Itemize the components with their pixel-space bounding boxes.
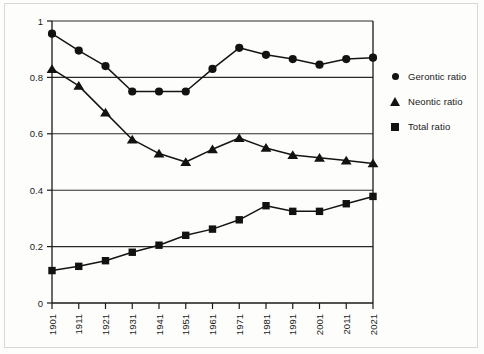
data-point-gerontic-ratio [369, 54, 377, 62]
data-point-total-ratio [343, 200, 350, 207]
x-tick-label: 1931 [127, 314, 138, 335]
x-tick-label: 1951 [180, 314, 191, 335]
legend-item-total-ratio: Total ratio [388, 114, 484, 139]
data-point-neontic-ratio [73, 81, 84, 90]
data-point-gerontic-ratio [48, 30, 56, 38]
x-tick-label: 1991 [287, 314, 298, 335]
triangle-marker-icon [388, 95, 402, 109]
x-tick-label: 2011 [341, 314, 352, 334]
y-tick-label: 0.4 [30, 185, 43, 196]
y-tick-label: 0.8 [30, 72, 43, 83]
data-point-neontic-ratio [154, 149, 165, 158]
data-point-gerontic-ratio [289, 55, 297, 63]
data-point-gerontic-ratio [235, 44, 243, 52]
x-tick-label: 2001 [314, 314, 325, 335]
data-point-neontic-ratio [47, 64, 58, 73]
data-point-gerontic-ratio [182, 87, 190, 95]
legend-item-gerontic-ratio: Gerontic ratio [388, 64, 484, 89]
x-tick-label: 2021 [368, 314, 379, 335]
y-tick-label: 0.2 [30, 241, 43, 252]
data-point-neontic-ratio [207, 145, 218, 154]
x-axis-tick-labels: 1901191119211931194119511961197119811991… [47, 314, 379, 335]
legend-label-total-ratio: Total ratio [408, 121, 450, 132]
legend-label-neontic-ratio: Neontic ratio [408, 96, 463, 107]
data-point-neontic-ratio [261, 143, 272, 152]
x-tick-label: 1961 [207, 314, 218, 335]
series-line-gerontic-ratio [52, 34, 373, 92]
data-point-total-ratio [262, 202, 269, 209]
data-point-total-ratio [129, 249, 136, 256]
data-point-gerontic-ratio [101, 62, 109, 70]
data-point-total-ratio [182, 232, 189, 239]
x-tick-label: 1981 [261, 314, 272, 335]
data-point-gerontic-ratio [315, 61, 323, 69]
x-axis-ticks [52, 303, 373, 309]
data-point-total-ratio [289, 208, 296, 215]
data-point-gerontic-ratio [75, 47, 83, 55]
y-tick-label: 0.6 [30, 128, 43, 139]
data-point-total-ratio [369, 193, 376, 200]
y-tick-label: 1 [38, 16, 43, 27]
data-point-gerontic-ratio [208, 65, 216, 73]
data-point-total-ratio [75, 263, 82, 270]
square-marker-icon [388, 120, 402, 134]
data-point-gerontic-ratio [155, 87, 163, 95]
y-tick-label: 0 [38, 298, 43, 309]
data-point-gerontic-ratio [262, 51, 270, 59]
data-point-neontic-ratio [234, 133, 245, 142]
data-point-gerontic-ratio [342, 55, 350, 63]
x-tick-label: 1921 [100, 314, 111, 335]
data-point-total-ratio [48, 267, 55, 274]
data-point-gerontic-ratio [128, 87, 136, 95]
x-tick-label: 1941 [154, 314, 165, 335]
y-axis-tick-labels: 00.20.40.60.81 [30, 16, 43, 309]
circle-marker-icon [388, 70, 402, 84]
chart-legend: Gerontic ratio Neontic ratio Total ratio [388, 64, 484, 139]
data-point-total-ratio [102, 257, 109, 264]
legend-label-gerontic-ratio: Gerontic ratio [408, 71, 466, 82]
data-point-total-ratio [236, 216, 243, 223]
line-chart-canvas: 00.20.40.60.81 1901191119211931194119511… [0, 0, 484, 354]
legend-item-neontic-ratio: Neontic ratio [388, 89, 484, 114]
gridlines [52, 21, 373, 247]
y-axis-ticks [47, 21, 52, 303]
series-markers [47, 30, 379, 275]
x-tick-label: 1901 [47, 314, 58, 335]
x-tick-label: 1971 [234, 314, 245, 335]
data-point-total-ratio [316, 208, 323, 215]
data-point-total-ratio [155, 241, 162, 248]
x-tick-label: 1911 [73, 314, 84, 334]
data-point-total-ratio [209, 225, 216, 232]
chart-figure: 00.20.40.60.81 1901191119211931194119511… [0, 0, 484, 354]
series-line-total-ratio [52, 196, 373, 270]
